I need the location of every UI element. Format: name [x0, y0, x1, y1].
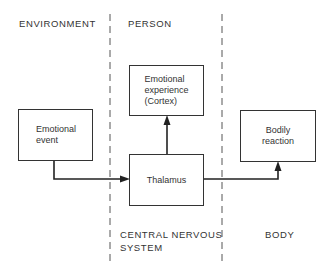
box-emotional-event: Emotional event — [18, 109, 93, 161]
arrow-thalamus-to-bodily — [203, 168, 278, 179]
box-emotional-event-text: Emotional event — [36, 124, 76, 146]
box-thalamus-text: Thalamus — [147, 175, 187, 186]
region-cns-label-line2: SYSTEM — [120, 242, 163, 253]
arrowhead-cortex — [164, 115, 171, 125]
region-body-label: BODY — [265, 229, 294, 240]
region-cns-label-line1: CENTRAL NERVOUS — [120, 229, 222, 240]
region-person-label: PERSON — [128, 18, 172, 29]
box-emotional-experience: Emotional experience (Cortex) — [129, 65, 204, 116]
arrowhead-bodily — [275, 161, 282, 171]
box-emotional-experience-text: Emotional experience (Cortex) — [144, 74, 188, 107]
box-thalamus: Thalamus — [129, 154, 204, 206]
region-environment-label: ENVIRONMENT — [19, 18, 96, 29]
box-bodily-reaction-text: Bodily reaction — [262, 125, 294, 147]
box-bodily-reaction: Bodily reaction — [240, 110, 316, 162]
arrow-event-to-thalamus — [54, 160, 124, 179]
